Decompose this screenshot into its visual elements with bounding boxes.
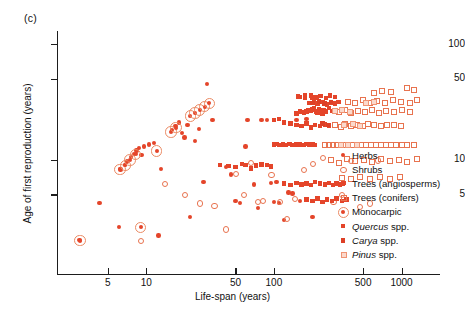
data-point [259,118,263,122]
data-point [313,123,317,127]
data-point [241,192,247,198]
data-point [411,87,417,93]
data-point [345,99,351,105]
data-point [414,97,420,103]
data-point [193,139,197,143]
data-point [315,196,319,200]
data-point [226,164,230,168]
legend-marker-icon [336,233,350,247]
data-point [294,118,298,122]
legend-marker-icon [336,162,350,176]
data-point [211,203,217,209]
data-point [142,144,146,148]
data-point [341,122,347,128]
data-point [339,107,345,113]
legend-item-1[interactable]: Shrubs [336,162,464,176]
data-point [277,199,283,205]
chart-legend: HerbsShrubsTrees (angiosperms)Trees (con… [336,148,464,262]
data-point [382,100,388,106]
data-point [371,90,377,96]
data-point [74,235,85,246]
data-point [151,145,162,156]
data-point [282,120,286,124]
x-tick-label-1000: 1000 [377,277,427,288]
data-point [205,82,209,86]
data-point [260,198,266,204]
data-point [147,142,151,146]
data-point [399,107,405,113]
legend-marker-icon [336,191,350,205]
data-point [318,94,323,99]
data-point [188,215,192,219]
data-point [327,106,332,111]
data-point [290,191,294,195]
data-point [391,122,397,128]
data-point [197,200,203,206]
data-point [223,226,229,232]
data-point [310,161,316,167]
data-point [159,167,163,171]
data-point [277,117,281,121]
legend-label: Carya spp. [352,235,398,246]
data-point [310,107,315,112]
data-point [313,143,317,147]
data-point [298,199,302,203]
legend-item-2[interactable]: Trees (angiosperms) [336,176,464,190]
data-point [362,109,368,115]
data-point [363,100,369,106]
data-point [326,123,331,128]
data-point [117,225,121,229]
data-point [272,200,276,204]
scatter-plot-figure: (c) 51050100 510501005001000 Life-span (… [0,0,465,316]
legend-item-7[interactable]: Pinus spp. [336,247,464,261]
data-point [404,85,410,91]
data-point [272,118,276,122]
data-point [347,109,353,115]
legend-label: Trees (conifers) [352,192,419,203]
data-point [265,118,269,122]
data-point [398,99,404,105]
data-point [299,182,303,186]
legend-item-6[interactable]: Carya spp. [336,233,464,247]
data-point [354,142,360,148]
data-point [238,201,242,205]
data-point [407,109,413,115]
legend-item-4[interactable]: Monocarpic [336,205,464,219]
legend-label: Shrubs [352,164,382,175]
data-point [310,101,315,106]
data-point [249,166,253,170]
data-point [299,124,303,128]
legend-item-0[interactable]: Herbs [336,148,464,162]
data-point [304,197,308,201]
panel-label: (c) [24,12,37,24]
legend-item-3[interactable]: Trees (conifers) [336,191,464,205]
data-point [378,123,384,129]
data-point [252,182,256,186]
data-point [243,144,247,148]
legend-label: Quercus spp. [352,221,409,232]
data-point [369,107,375,113]
data-point [315,110,320,115]
data-point [269,181,273,185]
data-point [325,197,329,201]
data-point [282,181,286,185]
legend-marker-icon [336,148,350,162]
legend-item-5[interactable]: Quercus spp. [336,219,464,233]
data-point [182,135,186,139]
data-point [313,180,317,184]
x-axis-title: Life-span (years) [0,291,465,302]
data-point [333,95,337,99]
data-point [303,93,308,98]
data-point [185,123,189,127]
data-point [243,163,247,167]
data-point [350,121,356,127]
data-point [379,88,385,94]
legend-marker-icon [336,247,350,261]
data-point [310,199,314,203]
data-point [329,100,334,105]
data-point [254,163,258,167]
data-point [233,171,239,177]
data-point [357,123,363,129]
data-point [404,142,410,148]
data-point [322,101,327,106]
